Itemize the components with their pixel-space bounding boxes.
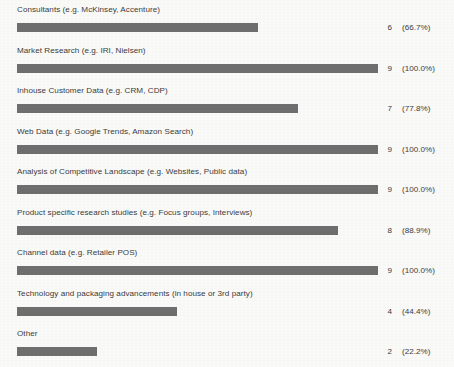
chart-row: Analysis of Competitive Landscape (e.g. … (0, 166, 454, 207)
bar-category-label: Technology and packaging advancements (i… (17, 288, 253, 299)
bar-category-label: Inhouse Customer Data (e.g. CRM, CDP) (17, 85, 168, 96)
bar-count-value: 8 (352, 225, 392, 236)
bar-count-value: 9 (352, 63, 392, 74)
bar-track (17, 64, 378, 73)
bar-track (17, 347, 378, 356)
horizontal-bar-chart: Consultants (e.g. McKinsey, Accenture)6(… (0, 0, 454, 367)
bar-fill (17, 347, 97, 356)
bar-fill (17, 104, 298, 113)
bar-category-label: Web Data (e.g. Google Trends, Amazon Sea… (17, 126, 193, 137)
chart-row: Web Data (e.g. Google Trends, Amazon Sea… (0, 126, 454, 167)
bar-category-label: Other (17, 328, 38, 339)
bar-count-value: 9 (352, 265, 392, 276)
bar-track (17, 226, 378, 235)
chart-row: Other2(22.2%) (0, 328, 454, 367)
bar-track (17, 266, 378, 275)
bar-fill (17, 145, 378, 154)
bar-count-value: 4 (352, 306, 392, 317)
bar-percent-value: (44.4%) (402, 306, 452, 317)
bar-percent-value: (100.0%) (402, 265, 452, 276)
bar-track (17, 185, 378, 194)
bar-percent-value: (77.8%) (402, 103, 452, 114)
chart-row: Channel data (e.g. Retailer POS)9(100.0%… (0, 247, 454, 288)
bar-count-value: 9 (352, 144, 392, 155)
bar-count-value: 6 (352, 22, 392, 33)
bar-category-label: Analysis of Competitive Landscape (e.g. … (17, 166, 247, 177)
chart-row: Technology and packaging advancements (i… (0, 288, 454, 329)
bar-category-label: Consultants (e.g. McKinsey, Accenture) (17, 4, 160, 15)
bar-track (17, 104, 378, 113)
bar-percent-value: (22.2%) (402, 346, 452, 357)
bar-fill (17, 226, 338, 235)
bar-count-value: 7 (352, 103, 392, 114)
bar-count-value: 9 (352, 184, 392, 195)
bar-category-label: Product specific research studies (e.g. … (17, 207, 252, 218)
chart-row: Market Research (e.g. IRI, Nielsen)9(100… (0, 45, 454, 86)
bar-fill (17, 266, 378, 275)
bar-percent-value: (100.0%) (402, 184, 452, 195)
bar-fill (17, 307, 177, 316)
chart-row: Inhouse Customer Data (e.g. CRM, CDP)7(7… (0, 85, 454, 126)
bar-track (17, 307, 378, 316)
bar-percent-value: (100.0%) (402, 144, 452, 155)
bar-fill (17, 64, 378, 73)
bar-category-label: Market Research (e.g. IRI, Nielsen) (17, 45, 146, 56)
bar-fill (17, 185, 378, 194)
bar-track (17, 23, 378, 32)
bar-percent-value: (88.9%) (402, 225, 452, 236)
bar-percent-value: (100.0%) (402, 63, 452, 74)
bar-percent-value: (66.7%) (402, 22, 452, 33)
bar-count-value: 2 (352, 346, 392, 357)
bar-fill (17, 23, 258, 32)
bar-category-label: Channel data (e.g. Retailer POS) (17, 247, 137, 258)
chart-row: Consultants (e.g. McKinsey, Accenture)6(… (0, 4, 454, 45)
bar-track (17, 145, 378, 154)
chart-row: Product specific research studies (e.g. … (0, 207, 454, 248)
